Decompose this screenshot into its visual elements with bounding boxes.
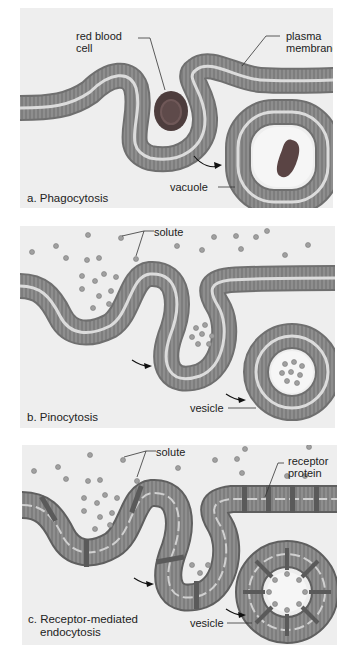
membrane-leader-line <box>242 36 280 66</box>
label-vacuole: vacuole <box>170 181 208 193</box>
solute-leader-line <box>124 451 156 477</box>
arrowhead-icon <box>146 581 154 587</box>
panel-phagocytosis: red bloodcell plasmamembrane vacuole a. … <box>20 8 333 208</box>
vacuole-icon <box>238 112 328 202</box>
arrowhead-icon <box>144 363 152 369</box>
label-red-blood-cell: red bloodcell <box>76 30 122 54</box>
panel-receptor-mediated-endocytosis: solute receptorprotein vesicle c. Recept… <box>22 445 337 645</box>
label-solute: solute <box>154 226 183 238</box>
caption-phagocytosis: a. Phagocytosis <box>27 192 108 205</box>
label-vesicle: vesicle <box>190 617 224 629</box>
panel-pinocytosis: solute vesicle b. Pinocytosis <box>20 226 335 428</box>
vesicle-icon <box>256 336 328 408</box>
label-receptor-protein: receptorprotein <box>288 455 328 479</box>
caption-receptor-mediated-endocytosis: c. Receptor-mediated endocytosis <box>28 613 138 639</box>
label-plasma-membrane: plasmamembrane <box>286 30 333 54</box>
caption-pinocytosis: b. Pinocytosis <box>27 411 98 424</box>
label-solute: solute <box>156 446 185 458</box>
pinocytosis-diagram <box>20 226 335 428</box>
solute-leader-line <box>122 231 154 256</box>
vesicle-icon <box>243 548 331 636</box>
red-blood-cell-icon <box>154 91 188 131</box>
label-vesicle: vesicle <box>190 402 224 414</box>
arrowhead-icon <box>238 397 246 403</box>
arrowhead-icon <box>214 162 222 169</box>
